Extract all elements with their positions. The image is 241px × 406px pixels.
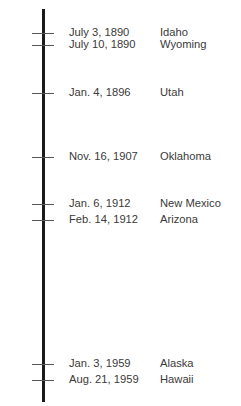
event-state: Arizona (160, 213, 198, 226)
event-date: July 10, 1890 (69, 38, 136, 51)
event-date: Jan. 6, 1912 (69, 197, 131, 210)
event-date: Feb. 14, 1912 (69, 213, 138, 226)
event-date: Jan. 3, 1959 (69, 357, 131, 370)
timeline-tick (32, 93, 54, 94)
event-date: Nov. 16, 1907 (69, 150, 138, 163)
event-date: Jan. 4, 1896 (69, 86, 131, 99)
event-state: Hawaii (160, 373, 194, 386)
timeline-tick (32, 380, 54, 381)
timeline-tick (32, 45, 54, 46)
event-state: Wyoming (160, 38, 207, 51)
event-date: Aug. 21, 1959 (69, 373, 139, 386)
timeline-tick (32, 204, 54, 205)
event-state: Alaska (160, 357, 194, 370)
timeline-tick (32, 220, 54, 221)
timeline-axis (42, 9, 45, 402)
event-state: New Mexico (160, 197, 221, 210)
event-state: Oklahoma (160, 150, 211, 163)
event-state: Utah (160, 86, 184, 99)
timeline-tick (32, 157, 54, 158)
timeline-tick (32, 364, 54, 365)
timeline-tick (32, 33, 54, 34)
